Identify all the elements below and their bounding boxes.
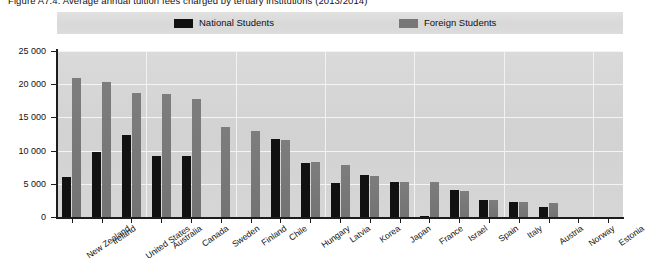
- gridline-vertical: [593, 51, 594, 217]
- bar-foreign: [549, 203, 558, 217]
- chart-legend: National Students Foreign Students: [57, 12, 623, 34]
- plot-area: [57, 51, 623, 217]
- legend-label-national-students: National Students: [199, 18, 274, 28]
- bar-national: [62, 177, 71, 217]
- x-category-label: Estonia: [617, 224, 646, 248]
- y-tick-label: 5 000: [23, 180, 46, 189]
- x-category-label: Latvia: [348, 224, 372, 245]
- gridline-vertical: [325, 51, 326, 217]
- gridline-vertical: [414, 51, 415, 217]
- y-tick-label: 25 000: [18, 47, 46, 56]
- x-tick-mark: [340, 219, 341, 223]
- x-category-label: Chile: [288, 224, 309, 243]
- bar-foreign: [72, 78, 81, 217]
- y-tick-label: 15 000: [18, 113, 46, 122]
- bar-national: [450, 190, 459, 217]
- y-axis-line: [56, 49, 58, 219]
- bar-foreign: [341, 165, 350, 217]
- gridline-horizontal: [57, 117, 623, 118]
- x-tick-mark: [280, 219, 281, 223]
- y-tick-mark: [51, 51, 57, 52]
- bar-national: [420, 216, 429, 217]
- y-tick-mark: [51, 184, 57, 185]
- x-tick-mark: [608, 219, 609, 223]
- x-tick-mark: [310, 219, 311, 223]
- bar-national: [301, 163, 310, 217]
- bar-national: [271, 139, 280, 217]
- legend-label-foreign-students: Foreign Students: [424, 18, 496, 28]
- gridline-horizontal: [57, 51, 623, 52]
- y-tick-label: 0: [41, 213, 46, 222]
- x-category-label: Japan: [408, 224, 432, 245]
- x-category-label: Israel: [467, 224, 489, 243]
- x-category-label: Italy: [526, 224, 544, 240]
- x-category-label: France: [438, 224, 465, 247]
- bar-national: [122, 135, 131, 217]
- y-tick-mark: [51, 117, 57, 118]
- x-tick-mark: [400, 219, 401, 223]
- x-tick-mark: [429, 219, 430, 223]
- y-tick-mark: [51, 84, 57, 85]
- bar-foreign: [400, 182, 409, 217]
- x-category-label: Ireland: [111, 224, 138, 246]
- bar-foreign: [430, 182, 439, 217]
- x-tick-mark: [221, 219, 222, 223]
- x-tick-mark: [191, 219, 192, 223]
- bar-foreign: [519, 202, 528, 217]
- x-category-label: Hungary: [320, 224, 352, 250]
- x-tick-mark: [102, 219, 103, 223]
- legend-swatch-foreign-icon: [399, 19, 418, 28]
- bar-foreign: [370, 176, 379, 217]
- x-tick-mark: [549, 219, 550, 223]
- bar-foreign: [251, 131, 260, 217]
- x-category-label: Austria: [558, 224, 585, 247]
- bar-foreign: [132, 93, 141, 217]
- bar-foreign: [311, 162, 320, 217]
- gridline-horizontal: [57, 84, 623, 85]
- gridline-vertical: [236, 51, 237, 217]
- legend-item-foreign-students: Foreign Students: [399, 12, 496, 34]
- x-tick-mark: [251, 219, 252, 223]
- chart-title-clipped: Figure A7.4. Average annual tuition fees…: [8, 0, 628, 7]
- x-tick-mark: [519, 219, 520, 223]
- y-tick-label: 20 000: [18, 80, 46, 89]
- bar-foreign: [489, 200, 498, 217]
- bar-national: [509, 202, 518, 217]
- bar-national: [182, 156, 191, 217]
- bar-foreign: [460, 191, 469, 217]
- bar-foreign: [192, 99, 201, 217]
- y-tick-label: 10 000: [18, 147, 46, 156]
- legend-swatch-national-icon: [174, 19, 193, 28]
- bar-national: [539, 207, 548, 217]
- x-category-label: Sweden: [231, 224, 262, 249]
- chart-title-text: Figure A7.4. Average annual tuition fees…: [8, 0, 628, 7]
- bar-national: [152, 156, 161, 217]
- bar-foreign: [162, 94, 171, 217]
- x-tick-mark: [370, 219, 371, 223]
- x-category-label: Norway: [587, 224, 616, 248]
- bar-national: [360, 175, 369, 217]
- x-category-label: Canada: [200, 224, 230, 249]
- gridline-horizontal: [57, 151, 623, 152]
- legend-item-national-students: National Students: [174, 12, 274, 34]
- x-category-label: Finland: [260, 224, 288, 248]
- bar-national: [479, 200, 488, 217]
- bar-foreign: [221, 127, 230, 217]
- bar-foreign: [102, 82, 111, 217]
- bar-national: [92, 152, 101, 217]
- x-category-label: Korea: [378, 224, 402, 245]
- bar-foreign: [281, 140, 290, 217]
- gridline-vertical: [504, 51, 505, 217]
- bar-national: [331, 183, 340, 217]
- bar-national: [390, 182, 399, 217]
- gridline-vertical: [146, 51, 147, 217]
- gridline-horizontal: [57, 184, 623, 185]
- x-tick-mark: [489, 219, 490, 223]
- x-category-label: Spain: [497, 224, 520, 244]
- x-tick-mark: [72, 219, 73, 223]
- y-tick-mark: [51, 217, 57, 218]
- x-tick-mark: [161, 219, 162, 223]
- y-tick-mark: [51, 151, 57, 152]
